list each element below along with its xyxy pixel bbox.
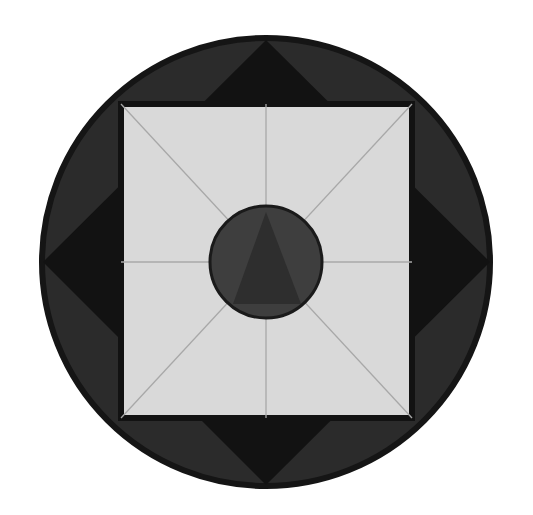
geometric-mandala-diagram [0, 0, 533, 515]
